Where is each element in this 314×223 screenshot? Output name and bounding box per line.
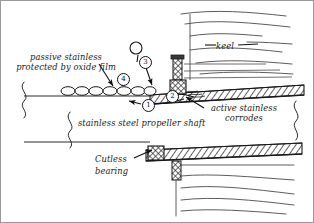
detached-oxide-bubble <box>130 42 142 54</box>
label-propeller-shaft: stainless steel propeller shaft <box>78 118 205 128</box>
callout-number-2: 2 <box>166 90 179 103</box>
label-passive-stainless: passive stainless protected by oxide fil… <box>10 52 122 73</box>
vertical-stud <box>171 55 184 80</box>
vertical-stud-lower <box>172 161 181 180</box>
label-active-stainless: active stainless corrodes <box>207 103 281 124</box>
technical-diagram-figure: passive stainless protected by oxide fil… <box>0 0 314 223</box>
label-keel: keel <box>216 41 234 51</box>
label-cutless-bearing: Cutless bearing <box>95 153 151 178</box>
callout-number-4: 4 <box>117 73 130 86</box>
callout-number-1: 1 <box>142 99 155 112</box>
callout-number-3: 3 <box>139 56 152 69</box>
